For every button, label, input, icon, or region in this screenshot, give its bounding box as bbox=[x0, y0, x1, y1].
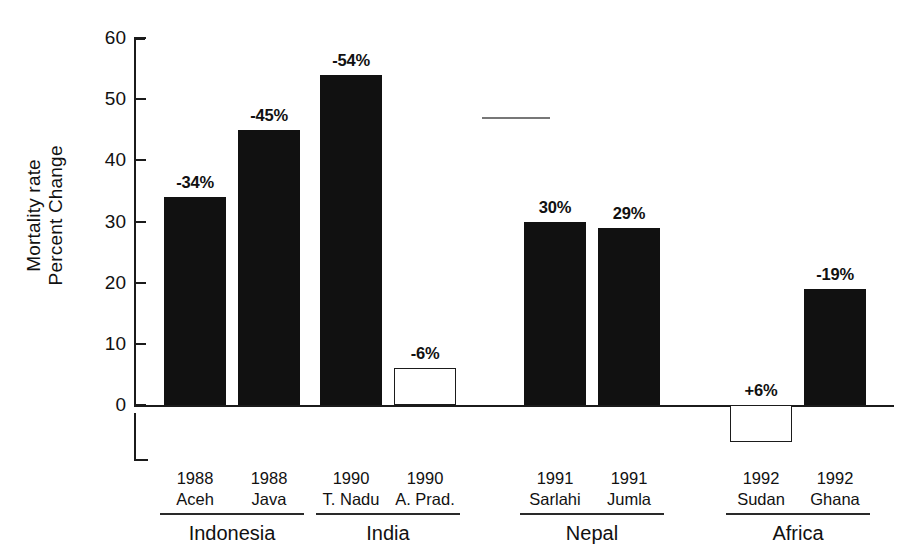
group-name-indonesia: Indonesia bbox=[189, 522, 276, 545]
x-axis-label-place: Jumla bbox=[607, 489, 651, 510]
bar-ghana-1992[interactable] bbox=[804, 289, 866, 405]
group-name-india: India bbox=[366, 522, 409, 545]
y-axis-tick bbox=[134, 282, 146, 284]
x-axis-label-place: Sudan bbox=[737, 489, 785, 510]
bar-sudan-1992[interactable] bbox=[730, 405, 792, 442]
x-axis-label-sudan-1992: 1992Sudan bbox=[737, 468, 785, 509]
y-axis-foot-cap bbox=[134, 459, 148, 461]
y-axis-tick bbox=[134, 343, 146, 345]
bar-aprad-1990[interactable] bbox=[394, 368, 456, 405]
y-axis-tick-label: 60 bbox=[90, 27, 126, 49]
bar-aceh-1988[interactable] bbox=[164, 197, 226, 405]
group-rule-africa bbox=[726, 513, 870, 515]
bar-value-label-tnadu-1990: -54% bbox=[332, 51, 370, 70]
bar-value-label-ghana-1992: -19% bbox=[816, 265, 854, 284]
bar-sarlahi-1991[interactable] bbox=[524, 222, 586, 406]
x-axis-label-place: T. Nadu bbox=[323, 489, 380, 510]
x-axis-label-place: A. Prad. bbox=[395, 489, 455, 510]
y-axis-tick-label: 50 bbox=[90, 88, 126, 110]
bar-value-label-sudan-1992: +6% bbox=[745, 381, 778, 400]
y-axis-tick-label: 10 bbox=[90, 333, 126, 355]
y-axis-lower-spine bbox=[134, 413, 136, 461]
y-axis-title: Mortality rate Percent Change bbox=[0, 0, 90, 430]
x-axis-label-year: 1990 bbox=[323, 468, 380, 489]
group-name-africa: Africa bbox=[772, 522, 823, 545]
x-axis-label-place: Sarlahi bbox=[529, 489, 580, 510]
y-axis-tick-label: 40 bbox=[90, 149, 126, 171]
bar-value-label-java-1988: -45% bbox=[250, 106, 288, 125]
group-name-nepal: Nepal bbox=[566, 522, 618, 545]
bar-jumla-1991[interactable] bbox=[598, 228, 660, 405]
group-rule-indonesia bbox=[160, 513, 304, 515]
x-axis-label-aceh-1988: 1988Aceh bbox=[176, 468, 214, 509]
x-axis-label-tnadu-1990: 1990T. Nadu bbox=[323, 468, 380, 509]
plot-area: 6050403020100 -34%-45%-54%-6%30%29%+6%-1… bbox=[134, 30, 894, 460]
y-axis-tick bbox=[134, 159, 146, 161]
x-axis-label-year: 1988 bbox=[251, 468, 288, 489]
x-axis-label-jumla-1991: 1991Jumla bbox=[607, 468, 651, 509]
x-axis-label-year: 1992 bbox=[810, 468, 860, 489]
bar-tnadu-1990[interactable] bbox=[320, 75, 382, 405]
group-rule-nepal bbox=[520, 513, 664, 515]
group-rule-india bbox=[316, 513, 460, 515]
x-axis-label-aprad-1990: 1990A. Prad. bbox=[395, 468, 455, 509]
x-axis-label-java-1988: 1988Java bbox=[251, 468, 288, 509]
y-axis-title-line-2: Percent Change bbox=[45, 145, 67, 285]
y-axis-tick-label: 30 bbox=[90, 211, 126, 233]
y-axis-title-line-1: Mortality rate bbox=[23, 159, 45, 272]
bar-chart: Mortality rate Percent Change 6050403020… bbox=[0, 0, 903, 559]
x-axis-label-year: 1992 bbox=[737, 468, 785, 489]
x-axis-label-year: 1988 bbox=[176, 468, 214, 489]
bar-java-1988[interactable] bbox=[238, 130, 300, 405]
bar-value-label-jumla-1991: 29% bbox=[613, 204, 645, 223]
y-axis-tick bbox=[134, 98, 146, 100]
x-axis-label-place: Aceh bbox=[176, 489, 214, 510]
scan-artifact-line bbox=[482, 117, 550, 119]
bar-value-label-aceh-1988: -34% bbox=[176, 173, 214, 192]
x-axis-label-sarlahi-1991: 1991Sarlahi bbox=[529, 468, 580, 509]
y-axis-tick bbox=[134, 404, 146, 406]
x-axis-label-year: 1991 bbox=[529, 468, 580, 489]
x-axis-label-year: 1990 bbox=[395, 468, 455, 489]
y-axis-tick bbox=[134, 37, 146, 39]
x-axis-label-place: Java bbox=[251, 489, 288, 510]
x-axis-label-year: 1991 bbox=[607, 468, 651, 489]
y-axis-tick bbox=[134, 221, 146, 223]
x-axis-label-place: Ghana bbox=[810, 489, 860, 510]
y-axis-tick-label: 20 bbox=[90, 272, 126, 294]
bar-value-label-sarlahi-1991: 30% bbox=[539, 198, 571, 217]
x-axis-label-ghana-1992: 1992Ghana bbox=[810, 468, 860, 509]
y-axis-tick-label: 0 bbox=[90, 394, 126, 416]
bar-value-label-aprad-1990: -6% bbox=[411, 344, 440, 363]
